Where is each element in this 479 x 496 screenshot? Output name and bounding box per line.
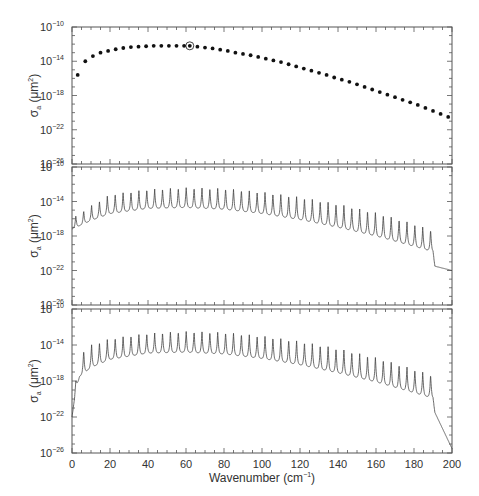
data-point: [241, 52, 245, 56]
x-tick-label: 0: [69, 458, 75, 470]
data-point: [439, 112, 443, 116]
y-tick-label: 10−18: [40, 89, 64, 102]
y-tick-label: 10−22: [40, 410, 64, 423]
y-tick-label: 10−14: [40, 195, 64, 208]
data-point: [218, 48, 222, 52]
y-tick-label: 10−26: [40, 446, 64, 459]
data-point: [363, 85, 367, 89]
cross-section-curve: [72, 332, 452, 449]
top-panel: 10−1010−1410−1810−2210−26σa (μm2): [27, 20, 452, 170]
data-point: [348, 80, 352, 84]
data-point: [211, 47, 215, 51]
data-point: [386, 93, 390, 97]
data-point: [175, 44, 179, 48]
data-point: [431, 109, 435, 113]
x-axis-label: Wavenumber (cm−1): [209, 471, 315, 485]
bottom-panel: 10−1010−1410−1810−2210−26σa (μm2): [27, 302, 452, 459]
data-point: [408, 100, 412, 104]
data-point: [144, 44, 148, 48]
data-point: [83, 59, 87, 63]
y-tick-label: 10−14: [40, 54, 64, 67]
x-tick-label: 80: [218, 458, 230, 470]
x-tick-label: 20: [104, 458, 116, 470]
data-point: [355, 82, 359, 86]
y-tick-label: 10−10: [40, 20, 64, 33]
data-point: [152, 44, 156, 48]
data-point: [91, 54, 95, 58]
y-tick-label: 10−10: [40, 160, 64, 173]
data-point: [310, 69, 314, 73]
data-point: [137, 45, 141, 49]
x-tick-label: 180: [405, 458, 423, 470]
data-point: [203, 46, 207, 50]
data-point: [234, 51, 238, 55]
plot-frame: [72, 309, 452, 453]
data-point: [106, 49, 110, 53]
data-point: [401, 98, 405, 102]
data-point: [121, 46, 125, 50]
data-point: [317, 71, 321, 75]
x-tick-label: 200: [443, 458, 461, 470]
data-point: [279, 60, 283, 64]
data-point: [114, 47, 118, 51]
data-point: [340, 78, 344, 82]
data-point: [99, 51, 103, 55]
x-tick-label: 160: [367, 458, 385, 470]
data-point: [325, 73, 329, 77]
x-tick-label: 40: [142, 458, 154, 470]
data-point: [416, 103, 420, 107]
y-tick-label: 10−18: [40, 229, 64, 242]
data-point: [370, 88, 374, 92]
data-point: [129, 45, 133, 49]
y-tick-label: 10−22: [40, 264, 64, 277]
data-point: [188, 44, 192, 48]
data-point: [196, 45, 200, 49]
cross-section-curve: [72, 188, 452, 271]
data-point: [264, 57, 268, 61]
data-point: [159, 44, 163, 48]
x-tick-label: 60: [180, 458, 192, 470]
y-tick-label: 10−22: [40, 123, 64, 136]
data-point: [332, 76, 336, 80]
absorption-cross-section-figure: 10−1010−1410−1810−2210−26σa (μm2)10−1010…: [0, 0, 479, 496]
data-point: [446, 115, 450, 119]
y-tick-label: 10−14: [40, 338, 64, 351]
data-point: [76, 73, 80, 77]
data-point: [294, 64, 298, 68]
x-tick-label: 140: [329, 458, 347, 470]
y-axis-label: σa (μm2): [27, 214, 42, 257]
data-point: [249, 53, 253, 57]
data-point: [424, 106, 428, 110]
data-point: [256, 55, 260, 59]
data-point: [287, 62, 291, 66]
x-tick-label: 100: [253, 458, 271, 470]
data-point: [226, 49, 230, 53]
y-axis-label: σa (μm2): [27, 74, 42, 117]
data-point: [272, 58, 276, 62]
data-point: [302, 67, 306, 71]
data-point: [378, 90, 382, 94]
y-axis-label: σa (μm2): [27, 359, 42, 402]
x-tick-label: 120: [291, 458, 309, 470]
middle-panel: 10−1010−1410−1810−2210−26σa (μm2): [27, 160, 452, 311]
plot-frame: [72, 167, 452, 305]
y-tick-label: 10−10: [40, 302, 64, 315]
data-point: [167, 44, 171, 48]
y-tick-label: 10−18: [40, 374, 64, 387]
data-point: [393, 95, 397, 99]
